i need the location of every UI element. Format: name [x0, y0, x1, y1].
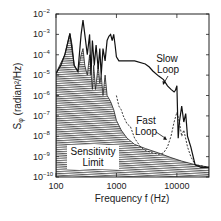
x-axis-title: Frequency f (Hz): [95, 193, 169, 204]
fast-loop-label-line2: Loop: [135, 126, 158, 137]
x-axis-tick-labels: 100100010000: [48, 181, 189, 191]
y-tick-label: 10−7: [33, 110, 51, 121]
sensitivity-limit-label-line1: Sensitivity: [70, 146, 115, 157]
x-tick-label: 100: [48, 181, 63, 191]
y-tick-label: 10−2: [33, 8, 51, 19]
y-tick-label: 10−8: [33, 130, 51, 141]
x-tick-label: 10000: [164, 181, 189, 191]
slow-loop-label-line2: Loop: [157, 64, 180, 75]
fast-loop-arrow: [156, 132, 165, 138]
phase-noise-chart: 10−210−310−410−510−610−710−810−910−10 10…: [0, 0, 221, 221]
y-tick-label: 10−5: [33, 69, 51, 80]
y-tick-label: 10−6: [33, 90, 51, 101]
sensitivity-limit-label-line2: Limit: [82, 157, 103, 168]
y-axis-title: Sφ (radian²/Hz): [12, 63, 25, 130]
y-tick-label: 10−4: [33, 49, 51, 60]
y-axis-tick-labels: 10−210−310−410−510−610−710−810−910−10: [33, 8, 54, 182]
x-tick-label: 1000: [106, 181, 126, 191]
slow-loop-label-line1: Slow: [156, 53, 178, 64]
y-tick-label: 10−3: [33, 28, 51, 39]
fast-loop-label-line1: Fast: [136, 115, 156, 126]
y-tick-label: 10−9: [33, 151, 51, 162]
